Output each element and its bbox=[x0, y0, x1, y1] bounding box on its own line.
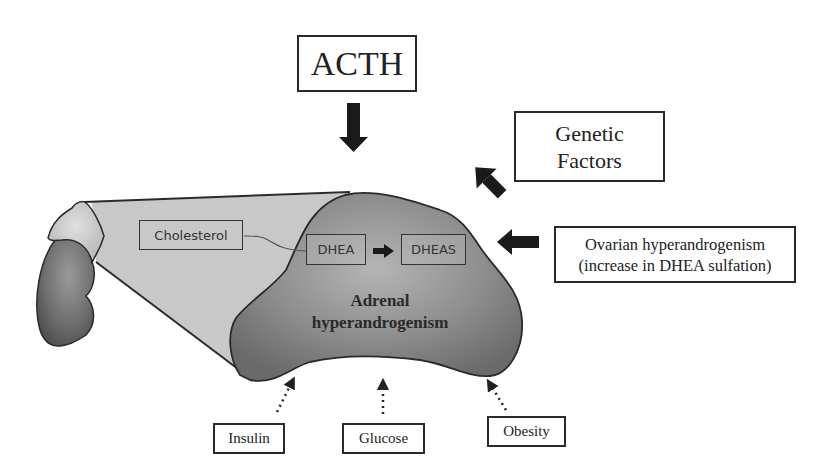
glucose-box: Glucose bbox=[342, 423, 425, 454]
insulin-label: Insulin bbox=[228, 430, 270, 447]
genetic-factors-line1: Genetic bbox=[555, 120, 623, 147]
genetic-factors-box: Genetic Factors bbox=[514, 111, 665, 182]
obesity-dotted-arrow-icon bbox=[490, 384, 506, 410]
ovarian-line2: (increase in DHEA sulfation) bbox=[579, 255, 772, 276]
genetic-factors-line2: Factors bbox=[557, 147, 622, 174]
cholesterol-box: Cholesterol bbox=[139, 220, 243, 250]
acth-arrow-icon bbox=[339, 103, 368, 152]
kidney-icon bbox=[37, 202, 104, 346]
ovarian-line1: Ovarian hyperandrogenism bbox=[585, 234, 765, 255]
insulin-dotted-arrow-icon bbox=[277, 382, 292, 412]
obesity-label: Obesity bbox=[503, 423, 550, 440]
acth-label: ACTH bbox=[311, 45, 404, 83]
acth-box: ACTH bbox=[297, 35, 417, 92]
dheas-box: DHEAS bbox=[401, 234, 466, 265]
adrenal-label-line1: Adrenal bbox=[300, 290, 460, 312]
dhea-box: DHEA bbox=[306, 234, 366, 265]
ovarian-hyperandrogenism-box: Ovarian hyperandrogenism (increase in DH… bbox=[554, 226, 796, 283]
dheas-label: DHEAS bbox=[411, 242, 456, 257]
cholesterol-label: Cholesterol bbox=[154, 228, 227, 243]
insulin-box: Insulin bbox=[213, 423, 285, 454]
ovarian-arrow-icon bbox=[497, 229, 539, 255]
glucose-label: Glucose bbox=[359, 430, 408, 447]
dhea-label: DHEA bbox=[318, 242, 355, 257]
adrenal-hyperandrogenism-diagram: ACTH Genetic Factors Ovarian hyperandrog… bbox=[0, 0, 819, 471]
obesity-box: Obesity bbox=[487, 416, 566, 447]
genetic-arrow-icon bbox=[465, 157, 512, 204]
adrenal-label-line2: hyperandrogenism bbox=[300, 312, 460, 334]
adrenal-hyperandrogenism-label: Adrenal hyperandrogenism bbox=[300, 290, 460, 334]
